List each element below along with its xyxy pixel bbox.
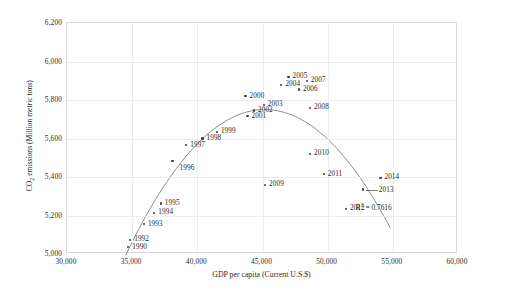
data-point-label: 1993 xyxy=(148,220,163,228)
data-point xyxy=(362,188,364,190)
data-point xyxy=(263,104,265,106)
data-point xyxy=(287,76,289,78)
x-axis-tick-label: 60,000 xyxy=(427,257,487,266)
data-point-label: 2007 xyxy=(311,76,326,84)
data-point-label: 1999 xyxy=(221,127,236,135)
gridline-vertical xyxy=(393,23,394,252)
data-point-label: 2010 xyxy=(314,149,329,157)
y-axis-title-wrap: CO2 emissions (Million metric tons) xyxy=(8,22,22,253)
data-point-label: 2004 xyxy=(285,80,300,88)
data-point-label: 2014 xyxy=(384,173,399,181)
data-point-label: 2011 xyxy=(328,170,343,178)
plot-area: 1990199219931994199519961997199819992000… xyxy=(66,22,457,253)
data-point-label: 1994 xyxy=(158,208,173,216)
r-squared-superscript: 2 xyxy=(361,202,364,208)
y-axis-title-subscript: 2 xyxy=(29,177,35,180)
data-point xyxy=(244,95,246,97)
gridline-vertical xyxy=(197,23,198,252)
data-point xyxy=(298,88,300,90)
gridline-horizontal xyxy=(67,216,456,217)
data-point xyxy=(379,177,381,179)
data-point-label: 1997 xyxy=(190,141,205,149)
x-axis-tick-label: 35,000 xyxy=(101,257,161,266)
data-point-label: 2013 xyxy=(379,186,394,194)
data-point xyxy=(160,202,162,204)
data-point-label: 2008 xyxy=(314,103,329,111)
x-axis-tick-label: 50,000 xyxy=(297,257,357,266)
gridline-horizontal xyxy=(67,62,456,63)
r-squared-annotation: R2 = 0.7616 xyxy=(356,202,392,212)
data-point-label: 1998 xyxy=(207,134,222,142)
gridline-vertical xyxy=(132,23,133,252)
data-point xyxy=(264,184,266,186)
x-axis-ticks: 30,00035,00040,00045,00050,00055,00060,0… xyxy=(66,257,457,271)
y-axis-title: CO2 emissions (Million metric tons) xyxy=(25,35,35,235)
data-point-label: 1992 xyxy=(134,235,149,243)
x-axis-tick-label: 55,000 xyxy=(362,257,422,266)
data-point xyxy=(216,131,218,133)
data-point-label: 2000 xyxy=(250,92,265,100)
x-axis-tick-label: 45,000 xyxy=(232,257,292,266)
x-axis-tick-label: 40,000 xyxy=(166,257,226,266)
label-leader-line xyxy=(366,190,378,191)
gridline-vertical xyxy=(263,23,264,252)
data-point xyxy=(201,137,203,139)
data-point-label: 1995 xyxy=(165,199,180,207)
data-point xyxy=(171,160,173,162)
data-point-label: 2005 xyxy=(293,72,308,80)
gridline-vertical xyxy=(328,23,329,252)
x-axis-title: GDP per capita (Current U.S.$) xyxy=(66,270,457,279)
gridline-horizontal xyxy=(67,139,456,140)
data-point xyxy=(253,109,255,111)
data-point-label: 2006 xyxy=(303,85,318,93)
data-point-label: 2009 xyxy=(269,180,284,188)
data-point-label: 1990 xyxy=(132,243,147,251)
data-point-label: 1996 xyxy=(180,164,195,172)
data-point xyxy=(345,208,347,210)
data-point xyxy=(306,80,308,82)
data-point-label: 2003 xyxy=(268,100,283,108)
data-point xyxy=(309,107,311,109)
scatter-chart: 1990199219931994199519961997199819992000… xyxy=(0,0,512,291)
x-axis-tick-label: 30,000 xyxy=(36,257,96,266)
gridline-horizontal xyxy=(67,100,456,101)
